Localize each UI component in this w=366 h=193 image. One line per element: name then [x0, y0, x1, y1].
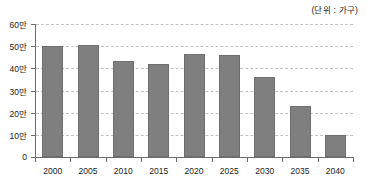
x-axis-line	[35, 157, 354, 158]
y-axis-tick-label: 40만	[10, 62, 27, 74]
bar	[78, 45, 99, 157]
x-axis-tick	[176, 158, 177, 162]
bar	[325, 135, 346, 157]
bar	[42, 46, 63, 157]
bar	[113, 61, 134, 157]
x-axis-tick	[318, 158, 319, 162]
bar-chart: (단위 : 가구) 010만20만30만40만50만60만 2000200520…	[0, 0, 366, 193]
x-axis-tick	[35, 158, 36, 162]
x-axis-tick-label: 2000	[43, 166, 62, 176]
x-axis-tick-label: 2025	[220, 166, 239, 176]
y-axis-tick	[31, 113, 36, 114]
bar	[219, 55, 240, 157]
y-axis-tick-label: 30만	[10, 85, 27, 97]
x-axis-tick	[212, 158, 213, 162]
gridline	[36, 24, 353, 25]
y-axis-tick-label: 20만	[10, 107, 27, 119]
y-axis-tick	[31, 135, 36, 136]
bar	[184, 54, 205, 157]
y-axis-tick	[31, 68, 36, 69]
y-axis-tick-label: 60만	[10, 18, 27, 30]
x-axis-tick-label: 2030	[255, 166, 274, 176]
x-axis-tick-label: 2010	[114, 166, 133, 176]
x-axis-tick	[353, 158, 354, 162]
x-axis-tick	[70, 158, 71, 162]
x-axis-tick	[106, 158, 107, 162]
bar	[290, 106, 311, 157]
y-axis-tick	[31, 46, 36, 47]
x-axis-tick	[282, 158, 283, 162]
x-axis-tick-label: 2015	[149, 166, 168, 176]
bar	[254, 77, 275, 157]
y-axis-tick-label: 50만	[10, 40, 27, 52]
bar	[148, 64, 169, 157]
x-axis-tick-label: 2005	[79, 166, 98, 176]
x-axis-tick	[141, 158, 142, 162]
x-axis-tick-label: 2035	[291, 166, 310, 176]
y-axis-tick-label: 0	[22, 152, 27, 162]
x-axis-tick-label: 2020	[185, 166, 204, 176]
x-axis-tick	[247, 158, 248, 162]
x-axis-tick-label: 2040	[326, 166, 345, 176]
y-axis-tick	[31, 91, 36, 92]
y-axis-tick-label: 10만	[10, 129, 27, 141]
unit-caption-label: (단위 : 가구)	[311, 3, 358, 15]
y-axis-tick	[31, 24, 36, 25]
